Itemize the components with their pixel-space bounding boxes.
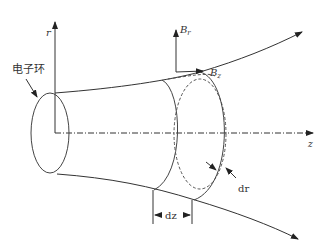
dr-label: dr: [238, 183, 249, 194]
z-axis-label: z: [307, 139, 313, 149]
b-z-label: Bz: [209, 67, 221, 80]
dr-arrow-outer: [226, 168, 236, 178]
electron-ring-label: 电子环: [12, 63, 45, 76]
electron-ring-diagram: r z 电子环 Br Bz dr dz: [0, 0, 327, 249]
inner-dashed-ellipse: [174, 79, 226, 189]
cylinder-outer-edge: [194, 72, 224, 200]
upper-envelope-curve: [55, 32, 302, 93]
dz-label: dz: [165, 210, 177, 221]
r-axis-label: r: [46, 27, 52, 38]
dr-arrow-inner: [206, 162, 216, 170]
b-r-label: Br: [179, 24, 191, 37]
electron-ring-pointer-arrow: [26, 79, 37, 97]
lower-envelope-curve: [57, 174, 298, 239]
